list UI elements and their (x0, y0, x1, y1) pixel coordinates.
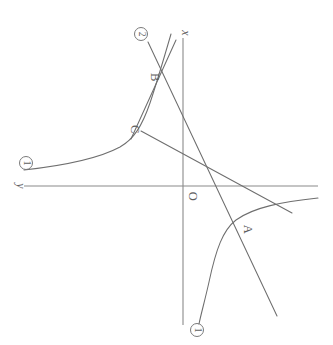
point-label-c: C (129, 125, 142, 133)
origin-label: O (186, 192, 199, 201)
point-label-a: A (241, 225, 254, 234)
chord-c-to-a (141, 131, 292, 213)
geometry-diagram (0, 0, 333, 345)
x-axis-label: x (180, 30, 192, 35)
curve-label-one-upper: 1 (19, 156, 33, 170)
secant-line-two (148, 42, 277, 316)
curve-label-two: 2 (134, 27, 148, 41)
hyperbola-branch-upper-left (24, 34, 171, 170)
point-label-b: B (149, 73, 162, 81)
curve-label-one-lower: 1 (190, 323, 204, 337)
figure-container: A B C O x y 1 2 1 (0, 0, 333, 345)
hyperbola-branch-lower-right (199, 198, 318, 324)
y-axis-label: y (15, 183, 27, 188)
